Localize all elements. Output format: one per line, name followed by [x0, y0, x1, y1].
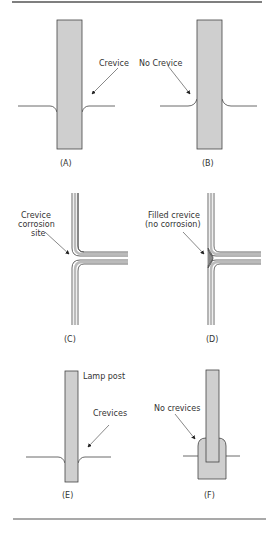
panel-b: No Crevice (B) [139, 20, 257, 168]
label-no-crevice: No Crevice [139, 59, 182, 68]
crevice-diagram: Crevice (A) No Crevice (B) Crevice corro… [0, 0, 268, 533]
label-no-crevices: No crevices [154, 404, 200, 413]
label-crevice-c3: site [31, 229, 46, 238]
panel-f: No crevices (F) [154, 370, 240, 500]
caption-f: (F) [204, 491, 215, 500]
panel-a: Crevice (A) [18, 20, 129, 168]
label-crevice: Crevice [99, 59, 129, 68]
label-crevice-c1: Crevice [21, 211, 51, 220]
label-filled-crevice: Filled crevice [148, 211, 200, 220]
caption-d: (D) [206, 335, 218, 344]
label-crevice-c2: corrosion [18, 220, 55, 229]
label-crevices: Crevices [93, 409, 127, 418]
caption-b: (B) [202, 159, 214, 168]
label-lamp-post: Lamp post [83, 372, 125, 381]
label-no-corrosion: (no corrosion) [145, 220, 201, 229]
caption-e: (E) [62, 491, 73, 500]
panel-c: Crevice corrosion site (C) [18, 193, 128, 344]
panel-e: Lamp post Crevices (E) [26, 371, 127, 500]
caption-a: (A) [60, 159, 72, 168]
caption-c: (C) [64, 335, 76, 344]
panel-d: Filled crevice (no corrosion) (D) [145, 193, 261, 344]
